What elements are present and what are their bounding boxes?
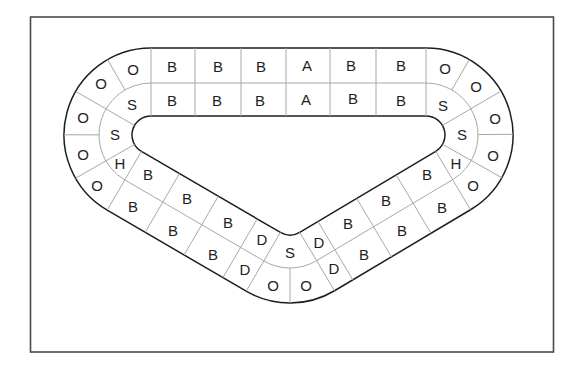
cell-label: A <box>301 91 311 108</box>
track-diagram: B B B A B B B B B A B B O O O O O S S H … <box>0 0 580 369</box>
cell-label: B <box>422 166 432 183</box>
cell-label: H <box>115 155 126 172</box>
cell-label: S <box>438 97 448 114</box>
cell-label: O <box>487 147 499 164</box>
cell-label: B <box>167 92 177 109</box>
cell-label: D <box>314 234 325 251</box>
cell-label: A <box>302 57 312 74</box>
cell-label: B <box>167 58 177 75</box>
cell-label: D <box>329 260 340 277</box>
cell-label: S <box>110 126 120 143</box>
cell-label: S <box>285 244 295 261</box>
cell-label: B <box>168 222 178 239</box>
cell-label: B <box>381 192 391 209</box>
cell-label: O <box>439 60 451 77</box>
cell-label: B <box>212 92 222 109</box>
cell-label: O <box>470 78 482 95</box>
cell-label: O <box>91 177 103 194</box>
cell-label: B <box>182 190 192 207</box>
cell-label: B <box>256 58 266 75</box>
cell-label: O <box>77 146 89 163</box>
cell-label: S <box>127 96 137 113</box>
cell-label: O <box>489 110 501 127</box>
cell-label: B <box>223 214 233 231</box>
cell-label: D <box>257 231 268 248</box>
cell-label: O <box>95 75 107 92</box>
cell-label: O <box>77 109 89 126</box>
cell-label: D <box>240 261 251 278</box>
cell-label: B <box>437 199 447 216</box>
cell-label: B <box>396 92 406 109</box>
cell-label: B <box>397 222 407 239</box>
cell-label: O <box>300 277 312 294</box>
cell-label: B <box>396 57 406 74</box>
cell-label: B <box>348 90 358 107</box>
cell-label: O <box>267 277 279 294</box>
cell-label: B <box>213 58 223 75</box>
cell-label: B <box>346 57 356 74</box>
cell-label: B <box>343 215 353 232</box>
cell-label: O <box>467 177 479 194</box>
cell-label: B <box>255 92 265 109</box>
cell-label: B <box>208 246 218 263</box>
cell-label: B <box>359 246 369 263</box>
cell-label: B <box>128 198 138 215</box>
cell-label: H <box>451 155 462 172</box>
cell-label: O <box>127 61 139 78</box>
cell-label: B <box>143 166 153 183</box>
cell-label: S <box>457 126 467 143</box>
